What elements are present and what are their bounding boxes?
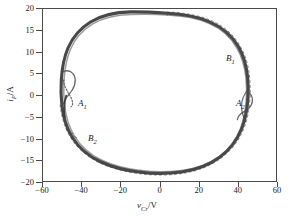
x-tick-label-text: 20 [194,185,203,195]
x-tick-label: −60 [22,186,62,195]
y-tick-mark [36,95,42,96]
y-tick-label-text: 10 [26,47,35,57]
annotation-A2: A2 [236,99,245,111]
annotation-B2-subscript: 2 [94,138,97,145]
y-axis-title-separator: / [5,93,15,96]
x-tick-label-text: 40 [234,185,243,195]
y-tick-label-text: −10 [21,134,34,144]
x-tick-label: 60 [257,186,294,195]
y-tick-mark [36,73,42,74]
x-tick-label: −40 [61,186,101,195]
y-tick-mark [36,117,42,118]
annotation-A2-subscript: 2 [242,103,245,110]
x-tick-label: 40 [218,186,258,195]
x-axis-title-subscript: Cr [141,205,148,212]
y-tick-label-text: −15 [21,155,34,165]
x-tick-label: 20 [179,186,219,195]
y-tick-label: 15 [0,26,34,35]
annotation-B1-subscript: 1 [232,58,235,65]
y-tick-label-text: 0 [30,90,34,100]
y-axis-title-subscript: P [10,95,17,99]
x-tick-label-text: −60 [35,185,48,195]
phase-portrait-figure: 20 15 10 5 0 −5 −10 −15 −20 −60 −40 −20 … [0,0,294,222]
x-tick-label-text: −20 [114,185,127,195]
y-tick-label: −10 [0,135,34,144]
annotation-B1: B1 [226,54,235,66]
x-axis-title: vCr/V [0,200,294,212]
y-tick-label: 10 [0,48,34,57]
y-tick-mark [36,160,42,161]
annotation-B2: B2 [88,134,97,146]
y-tick-mark [36,8,42,9]
y-axis-title-unit: A [5,86,15,93]
x-tick-label: −20 [100,186,140,195]
x-tick-label-text: −40 [75,185,88,195]
annotation-A1-subscript: 1 [84,103,87,110]
x-tick-label: 0 [140,186,180,195]
y-tick-label: −15 [0,156,34,165]
y-tick-mark [36,139,42,140]
annotation-A1: A1 [78,99,87,111]
y-tick-label: 20 [0,4,34,13]
y-tick-label-text: 15 [26,25,35,35]
x-tick-label-text: 0 [157,185,161,195]
y-tick-label-text: 20 [26,3,35,13]
y-tick-label-text: 5 [30,68,34,78]
x-axis-title-unit: V [150,200,157,210]
y-tick-mark [36,52,42,53]
y-axis-title: iP/A [5,64,17,124]
y-axis-title-symbol: i [5,99,15,102]
plot-frame [42,8,277,182]
y-tick-label-text: −5 [25,112,34,122]
x-tick-label-text: 60 [273,185,282,195]
y-tick-mark [36,30,42,31]
